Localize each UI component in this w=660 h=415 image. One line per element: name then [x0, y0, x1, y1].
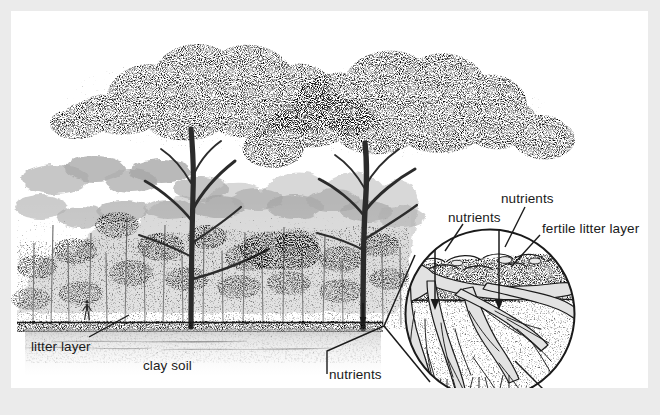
atmospheric-haze: [11, 201, 411, 327]
crown-right-halo: [255, 65, 547, 157]
figure-root: litter layer clay soil nutrients nutrien…: [0, 0, 660, 415]
illustration-plate: litter layer clay soil nutrients nutrien…: [11, 11, 648, 388]
label-nutrients-left: nutrients: [448, 211, 501, 225]
label-litter-layer: litter layer: [31, 340, 91, 354]
label-clay-soil: clay soil: [143, 359, 192, 373]
label-fertile-litter-layer: fertile litter layer: [542, 222, 639, 236]
label-nutrients-top: nutrients: [501, 192, 554, 206]
label-nutrients-main: nutrients: [329, 368, 382, 382]
